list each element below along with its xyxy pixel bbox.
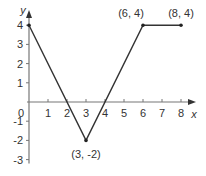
point-annotations: (3, -2)(6, 4)(8, 4) — [71, 7, 194, 160]
y-tick-label: 2 — [17, 58, 23, 70]
y-tick-label: -2 — [13, 134, 23, 146]
x-tick-label: 4 — [102, 107, 108, 119]
tick-labels: yx1234567804321-1-2-3 — [13, 4, 197, 166]
axes — [26, 10, 196, 164]
y-tick-label: 1 — [17, 77, 23, 89]
y-tick-label: 4 — [17, 19, 23, 31]
x-tick-label: 8 — [178, 107, 184, 119]
y-tick-label: -3 — [13, 154, 23, 166]
x-axis-title: x — [190, 108, 197, 120]
y-tick-label: 3 — [17, 38, 23, 50]
y-axis-arrow-icon — [26, 10, 32, 18]
data-point — [27, 23, 31, 27]
x-tick-label: 5 — [121, 107, 127, 119]
point-label: (8, 4) — [168, 7, 194, 19]
data-point — [179, 23, 183, 27]
line-chart: yx1234567804321-1-2-3 (3, -2)(6, 4)(8, 4… — [0, 0, 206, 176]
data-series — [27, 23, 183, 142]
tick-marks — [26, 25, 181, 159]
data-point — [84, 139, 88, 143]
y-axis-title: y — [19, 4, 27, 16]
series-line — [29, 25, 181, 140]
x-tick-label: 7 — [159, 107, 165, 119]
x-tick-label: 1 — [45, 107, 51, 119]
point-label: (6, 4) — [118, 7, 144, 19]
y-tick-label: -1 — [13, 115, 23, 127]
x-tick-label: 3 — [83, 107, 89, 119]
point-label: (3, -2) — [71, 148, 100, 160]
data-point — [141, 23, 145, 27]
x-tick-label: 6 — [140, 107, 146, 119]
x-axis-arrow-icon — [188, 99, 196, 105]
x-tick-label: 2 — [64, 107, 70, 119]
